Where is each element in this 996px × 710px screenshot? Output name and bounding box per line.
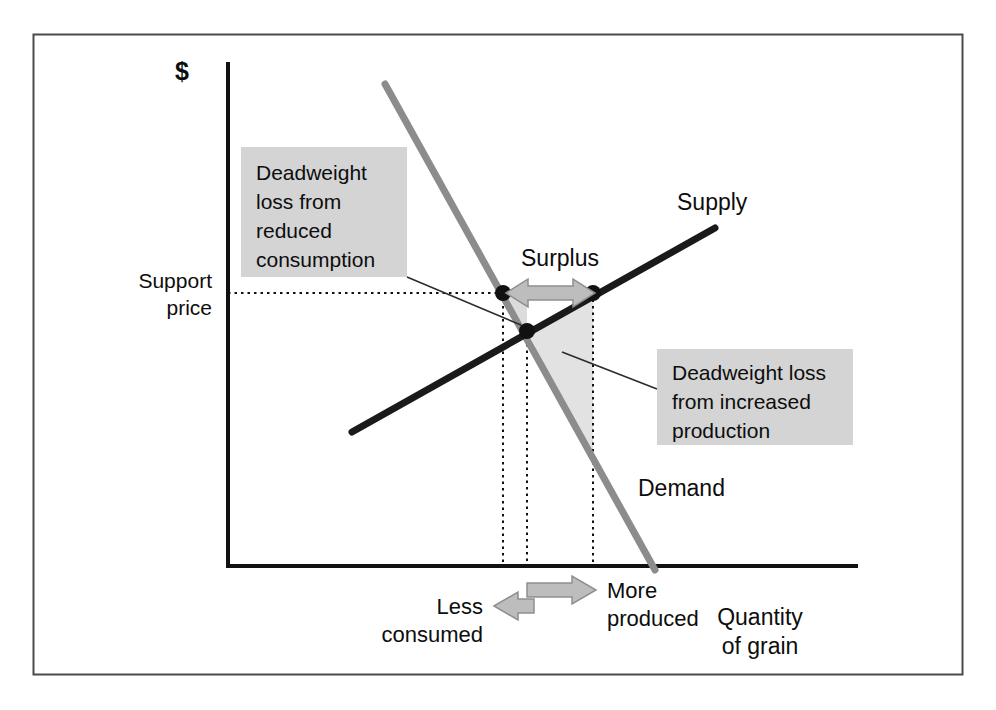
price-support-diagram: $ Quantity of grain Support price Demand… — [0, 0, 996, 710]
callout-reduced-consumption-line2: loss from — [256, 190, 341, 213]
support-price-label-line2: price — [166, 296, 212, 319]
callout-increased-production-line3: production — [672, 419, 770, 442]
supply-curve-label: Supply — [677, 189, 748, 215]
callout-reduced-consumption-line4: consumption — [256, 248, 375, 271]
demand-curve-label: Demand — [638, 475, 725, 501]
more-produced-label-line1: More — [607, 578, 657, 603]
callout-reduced-consumption-line3: reduced — [256, 219, 332, 242]
support-price-label-line1: Support — [138, 269, 212, 292]
x-axis-label-line2: of grain — [722, 633, 799, 659]
y-axis-label: $ — [175, 57, 189, 85]
point-market-equilibrium — [519, 323, 535, 339]
less-consumed-label-line1: Less — [437, 594, 483, 619]
more-produced-label-line2: produced — [607, 606, 699, 631]
surplus-label: Surplus — [521, 245, 599, 271]
callout-increased-production-line1: Deadweight loss — [672, 361, 826, 384]
less-consumed-label-line2: consumed — [381, 622, 483, 647]
figure-root: $ Quantity of grain Support price Demand… — [0, 0, 996, 710]
callout-reduced-consumption-line1: Deadweight — [256, 161, 367, 184]
x-axis-label-line1: Quantity — [717, 604, 803, 630]
callout-increased-production-line2: from increased — [672, 390, 811, 413]
